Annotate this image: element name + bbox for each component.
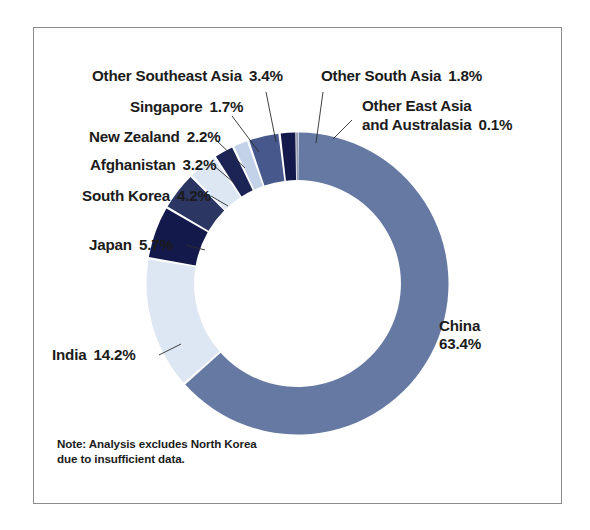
label-other-south-asia-value: 1.8% [448, 67, 482, 84]
label-singapore: Singapore1.7% [130, 97, 243, 116]
label-afghanistan-name: Afghanistan [90, 156, 176, 173]
label-other-east-asia: Other East Asia and Australasia0.1% [362, 96, 512, 134]
label-new-zealand: New Zealand2.2% [89, 127, 220, 146]
label-india-name: India [52, 346, 86, 363]
label-other-east-asia-line1: Other East Asia [362, 97, 472, 114]
label-new-zealand-value: 2.2% [187, 128, 221, 145]
label-other-east-asia-line2-wrap: and Australasia0.1% [362, 115, 512, 134]
label-other-east-asia-value: 0.1% [479, 116, 513, 133]
label-south-korea: South Korea4.2% [82, 186, 211, 205]
chart-note: Note: Analysis excludes North Korea due … [57, 437, 272, 466]
label-japan-name: Japan [89, 236, 132, 253]
label-afghanistan-value: 3.2% [183, 156, 217, 173]
label-india: India14.2% [52, 345, 136, 364]
label-south-korea-value: 4.2% [177, 187, 211, 204]
label-singapore-value: 1.7% [209, 98, 243, 115]
label-japan: Japan5.7% [89, 235, 173, 254]
label-china: China 63.4% [439, 317, 481, 353]
label-china-name: China [439, 317, 481, 335]
figure-root: Other Southeast Asia3.4% Singapore1.7% N… [0, 0, 590, 530]
donut-slice-other-east-asia-and-australasia[interactable] [297, 133, 298, 181]
label-other-southeast-asia: Other Southeast Asia3.4% [92, 66, 283, 85]
label-other-southeast-asia-value: 3.4% [249, 67, 283, 84]
label-india-value: 14.2% [93, 346, 135, 363]
leader-line-other-east-asia [333, 120, 352, 139]
label-other-east-asia-line2: and Australasia [362, 116, 472, 133]
label-singapore-name: Singapore [130, 98, 202, 115]
label-south-korea-name: South Korea [82, 187, 170, 204]
label-other-south-asia-name: Other South Asia [321, 67, 441, 84]
label-afghanistan: Afghanistan3.2% [90, 155, 216, 174]
label-japan-value: 5.7% [139, 236, 173, 253]
donut-slice-group [147, 133, 449, 435]
label-china-value: 63.4% [439, 335, 481, 353]
label-other-south-asia: Other South Asia1.8% [321, 66, 482, 85]
label-other-southeast-asia-name: Other Southeast Asia [92, 67, 242, 84]
label-new-zealand-name: New Zealand [89, 128, 180, 145]
leader-line-other-southeast-asia [266, 92, 276, 142]
